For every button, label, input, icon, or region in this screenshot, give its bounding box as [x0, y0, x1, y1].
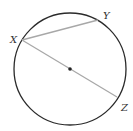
- label-y: Y: [103, 10, 111, 21]
- label-x: X: [9, 34, 18, 45]
- center-point: [68, 67, 72, 71]
- chord-xy: [22, 20, 98, 40]
- label-z: Z: [120, 102, 129, 113]
- circle-diagram: X Y Z: [0, 0, 133, 131]
